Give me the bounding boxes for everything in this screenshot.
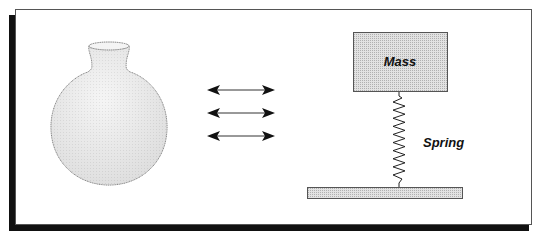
spring-label: Spring <box>423 135 464 150</box>
diagram-canvas: Mass Spring <box>0 0 541 236</box>
mass-label: Mass <box>384 54 417 69</box>
base-plate <box>308 188 463 199</box>
flask-mouth <box>89 42 129 50</box>
mass-block: Mass <box>354 33 448 92</box>
